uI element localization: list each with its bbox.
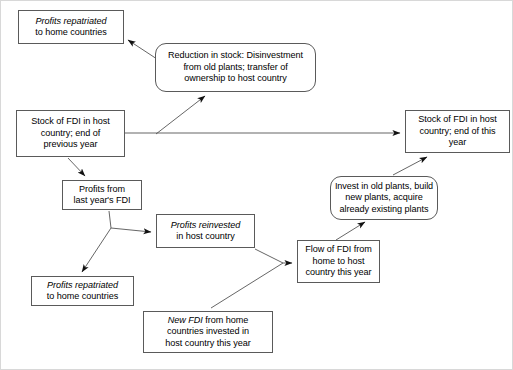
profits-repatriated-bottom-text: to home countries bbox=[47, 291, 118, 301]
stock-of-fdi-previous-year-line-2: country; end of bbox=[41, 128, 100, 139]
edge-profits-last-year-fork-to-reinvested bbox=[109, 211, 151, 232]
reduction-in-stock: Reduction in stock: Disinvestmentfrom ol… bbox=[155, 43, 316, 92]
reduction-in-stock-line-2: from old plants; transfer of bbox=[183, 62, 287, 73]
profits-from-last-years-fdi-line-2: last year's FDI bbox=[73, 195, 130, 206]
stock-of-fdi-previous-year: Stock of FDI in hostcountry; end ofprevi… bbox=[16, 110, 125, 157]
invest-in-old-plants-line-1: Invest in old plants, build bbox=[335, 181, 433, 192]
stock-of-fdi-previous-year-text: Stock of FDI in host bbox=[31, 116, 109, 126]
flow-of-fdi-home-to-host-line-3: country this year bbox=[306, 267, 372, 278]
profits-reinvested-in-host-country-text: in host country bbox=[176, 231, 234, 241]
invest-in-old-plants: Invest in old plants, buildnew plants, a… bbox=[330, 176, 438, 220]
invest-in-old-plants-text: new plants, acquire bbox=[345, 192, 422, 202]
edge-reinvested-to-flow bbox=[255, 249, 292, 263]
profits-from-last-years-fdi: Profits fromlast year's FDI bbox=[62, 180, 142, 210]
flow-of-fdi-home-to-host-text: Flow of FDI from bbox=[305, 244, 371, 254]
invest-in-old-plants-text: Invest in old plants, build bbox=[335, 181, 433, 191]
profits-repatriated-top: Profits repatriatedto home countries bbox=[18, 10, 124, 44]
flow-of-fdi-home-to-host-text: home to host bbox=[313, 256, 365, 266]
reduction-in-stock-line-1: Reduction in stock: Disinvestment bbox=[168, 50, 303, 61]
profits-repatriated-bottom-text: Profits repatriated bbox=[47, 280, 118, 290]
edge-flow-to-invest bbox=[336, 222, 365, 240]
profits-repatriated-bottom-line-1: Profits repatriated bbox=[47, 280, 118, 291]
invest-in-old-plants-text: already existing plants bbox=[340, 204, 429, 214]
stock-of-fdi-this-year-text: Stock of FDI in host bbox=[418, 114, 496, 124]
stock-of-fdi-this-year: Stock of FDI in hostcountry; end of this… bbox=[405, 110, 510, 153]
stock-of-fdi-previous-year-line-1: Stock of FDI in host bbox=[31, 116, 109, 127]
stock-of-fdi-this-year-line-3: year bbox=[449, 137, 467, 148]
profits-reinvested-in-host-country-line-1: Profits reinvested bbox=[171, 220, 240, 231]
profits-repatriated-top-text: to home countries bbox=[35, 27, 106, 37]
new-fdi-from-home-countries-text: countries invested in bbox=[167, 326, 249, 336]
profits-reinvested-in-host-country-text: Profits reinvested bbox=[171, 220, 240, 230]
profits-from-last-years-fdi-text: Profits from bbox=[79, 184, 125, 194]
profits-reinvested-in-host-country: Profits reinvestedin host country bbox=[156, 214, 255, 248]
new-fdi-from-home-countries: New FDI from homecountries invested inho… bbox=[143, 311, 273, 353]
reduction-in-stock-text: Reduction in stock: Disinvestment bbox=[168, 50, 303, 60]
invest-in-old-plants-line-2: new plants, acquire bbox=[345, 192, 422, 203]
reduction-in-stock-text: from old plants; transfer of bbox=[183, 62, 287, 72]
profits-repatriated-bottom: Profits repatriatedto home countries bbox=[31, 276, 134, 306]
stock-of-fdi-previous-year-line-3: previous year bbox=[44, 139, 98, 150]
flow-of-fdi-home-to-host-text: country this year bbox=[306, 267, 372, 277]
new-fdi-from-home-countries-text: host country this year bbox=[165, 338, 250, 348]
new-fdi-from-home-countries-text-suffix: from home bbox=[203, 315, 249, 325]
diagram-canvas: Profits repatriatedto home countriesRedu… bbox=[0, 0, 513, 370]
new-fdi-from-home-countries-text: New FDI bbox=[168, 315, 203, 325]
profits-repatriated-top-line-2: to home countries bbox=[35, 27, 106, 38]
edge-stock-previous-to-profits-last-year bbox=[68, 158, 85, 176]
edge-profits-last-year-fork-to-repatriated bbox=[82, 228, 111, 272]
profits-repatriated-top-text: Profits repatriated bbox=[36, 16, 107, 26]
flow-of-fdi-home-to-host-line-2: home to host bbox=[313, 256, 365, 267]
new-fdi-from-home-countries-line-2: countries invested in bbox=[167, 326, 249, 337]
reduction-in-stock-line-3: ownership to host country bbox=[184, 73, 286, 84]
new-fdi-from-home-countries-line-1: New FDI from home bbox=[168, 315, 249, 326]
reduction-in-stock-text: ownership to host country bbox=[184, 73, 286, 83]
stock-of-fdi-this-year-line-2: country; end of this bbox=[420, 126, 496, 137]
invest-in-old-plants-line-3: already existing plants bbox=[340, 204, 429, 215]
flow-of-fdi-home-to-host-line-1: Flow of FDI from bbox=[305, 244, 371, 255]
profits-from-last-years-fdi-text: last year's FDI bbox=[73, 195, 130, 205]
stock-of-fdi-previous-year-text: previous year bbox=[44, 139, 98, 149]
stock-of-fdi-this-year-text: country; end of this bbox=[420, 126, 496, 136]
stock-of-fdi-this-year-text: year bbox=[449, 137, 467, 147]
edge-new-fdi-to-flow bbox=[211, 263, 283, 308]
profits-reinvested-in-host-country-line-2: in host country bbox=[176, 231, 234, 242]
edge-invest-to-stock-this-year bbox=[393, 157, 427, 175]
profits-from-last-years-fdi-line-1: Profits from bbox=[79, 184, 125, 195]
profits-repatriated-top-line-1: Profits repatriated bbox=[36, 16, 107, 27]
profits-repatriated-bottom-line-2: to home countries bbox=[47, 291, 118, 302]
stock-of-fdi-previous-year-text: country; end of bbox=[41, 128, 100, 138]
flow-of-fdi-home-to-host: Flow of FDI fromhome to hostcountry this… bbox=[297, 240, 380, 283]
new-fdi-from-home-countries-line-3: host country this year bbox=[165, 338, 250, 349]
stock-of-fdi-this-year-line-1: Stock of FDI in host bbox=[418, 114, 496, 125]
edge-stock-previous-to-reduction bbox=[156, 96, 205, 134]
